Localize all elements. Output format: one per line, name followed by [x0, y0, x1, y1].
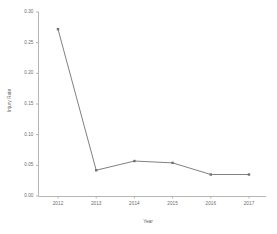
- data-series-line: [58, 29, 249, 174]
- data-point-marker: [248, 173, 250, 175]
- x-tick-label: 2012: [45, 201, 71, 206]
- data-point-marker: [210, 173, 212, 175]
- plot-area: [0, 0, 277, 234]
- x-tick-label: 2014: [121, 201, 147, 206]
- x-tick-label: 2017: [236, 201, 262, 206]
- data-point-marker: [171, 162, 173, 164]
- x-axis-title: Year: [108, 219, 188, 224]
- x-tick-label: 2013: [83, 201, 109, 206]
- y-tick-label: 0.30: [16, 9, 34, 14]
- y-tick-label: 0.00: [16, 193, 34, 198]
- y-axis-title: Injury Rate: [7, 76, 12, 126]
- data-point-marker: [57, 28, 59, 30]
- data-point-marker: [95, 169, 97, 171]
- y-tick-label: 0.05: [16, 162, 34, 167]
- y-tick-label: 0.10: [16, 132, 34, 137]
- data-point-markers: [57, 28, 250, 176]
- y-tick-label: 0.15: [16, 101, 34, 106]
- y-tick-label: 0.20: [16, 70, 34, 75]
- y-tick-label: 0.25: [16, 40, 34, 45]
- data-point-marker: [133, 160, 135, 162]
- line-chart: 0.000.050.100.150.200.250.30 20122013201…: [0, 0, 277, 234]
- x-tick-label: 2015: [160, 201, 186, 206]
- x-tick-label: 2016: [198, 201, 224, 206]
